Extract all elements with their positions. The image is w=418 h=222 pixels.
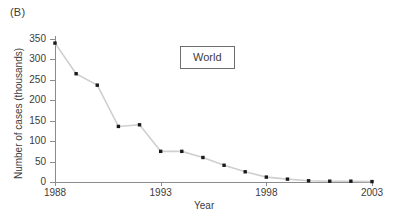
y-axis-label: Number of cases (thousands) (13, 34, 24, 194)
data-point (96, 83, 99, 86)
data-point (286, 177, 289, 180)
x-axis-label: Year (194, 200, 214, 211)
data-point (138, 123, 141, 126)
chart-plot-area: 050100150200250300350 1988199319982003 W… (0, 0, 418, 222)
data-point (370, 180, 373, 183)
data-point (53, 41, 56, 44)
data-point (307, 179, 310, 182)
data-point (74, 72, 77, 75)
data-point (222, 164, 225, 167)
data-point (244, 170, 247, 173)
data-point (265, 175, 268, 178)
data-point (159, 150, 162, 153)
figure-panel: (B) 050100150200250300350 19881993199820… (0, 0, 418, 222)
data-point (117, 125, 120, 128)
data-point (349, 179, 352, 182)
annotation-world-box: World (180, 46, 235, 69)
data-point (328, 179, 331, 182)
data-point (180, 150, 183, 153)
data-point (201, 156, 204, 159)
series-world (0, 0, 418, 222)
